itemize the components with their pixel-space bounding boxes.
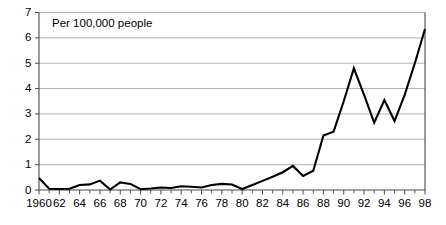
x-tick-label-1984: 84 [276, 197, 289, 209]
x-tick-label-1964: 64 [73, 197, 86, 209]
x-tick-label-1992: 92 [358, 197, 371, 209]
x-tick-marks-group [39, 190, 425, 195]
x-tick-label-1990: 90 [337, 197, 350, 209]
y-tick-label-5: 5 [25, 57, 31, 69]
x-tick-label-1980: 80 [236, 197, 249, 209]
y-tick-label-0: 0 [25, 184, 31, 196]
x-tick-label-1996: 96 [398, 197, 411, 209]
y-tick-label-2: 2 [25, 133, 31, 145]
y-tick-label-4: 4 [25, 82, 32, 94]
x-tick-label-1982: 82 [256, 197, 269, 209]
x-tick-label-1962: 62 [53, 197, 66, 209]
line-chart: 01234567 1960626466687072747678808284868… [0, 0, 446, 225]
x-tick-label-1966: 66 [94, 197, 107, 209]
y-tick-labels-group: 01234567 [25, 6, 32, 196]
x-tick-label-1986: 86 [297, 197, 310, 209]
y-tick-label-1: 1 [25, 158, 31, 170]
x-tick-label-1978: 78 [215, 197, 228, 209]
x-tick-label-1976: 76 [195, 197, 208, 209]
x-tick-label-1960: 1960 [26, 197, 52, 209]
x-tick-label-1994: 94 [378, 197, 391, 209]
x-tick-label-1974: 74 [175, 197, 188, 209]
y-tick-marks-group [35, 13, 39, 191]
x-tick-labels-group: 1960626466687072747678808284868890929496… [26, 197, 431, 209]
x-tick-label-1972: 72 [154, 197, 167, 209]
chart-figure: 01234567 1960626466687072747678808284868… [0, 0, 446, 225]
x-tick-label-1988: 88 [317, 197, 330, 209]
y-tick-label-7: 7 [25, 6, 31, 18]
y-tick-label-6: 6 [25, 31, 31, 43]
y-tick-label-3: 3 [25, 107, 31, 119]
x-tick-label-1998: 98 [419, 197, 432, 209]
x-tick-label-1968: 68 [114, 197, 127, 209]
plot-annotation-label: Per 100,000 people [52, 17, 152, 29]
gridlines-group [39, 13, 425, 165]
data-series-line [39, 29, 425, 190]
x-tick-label-1970: 70 [134, 197, 147, 209]
